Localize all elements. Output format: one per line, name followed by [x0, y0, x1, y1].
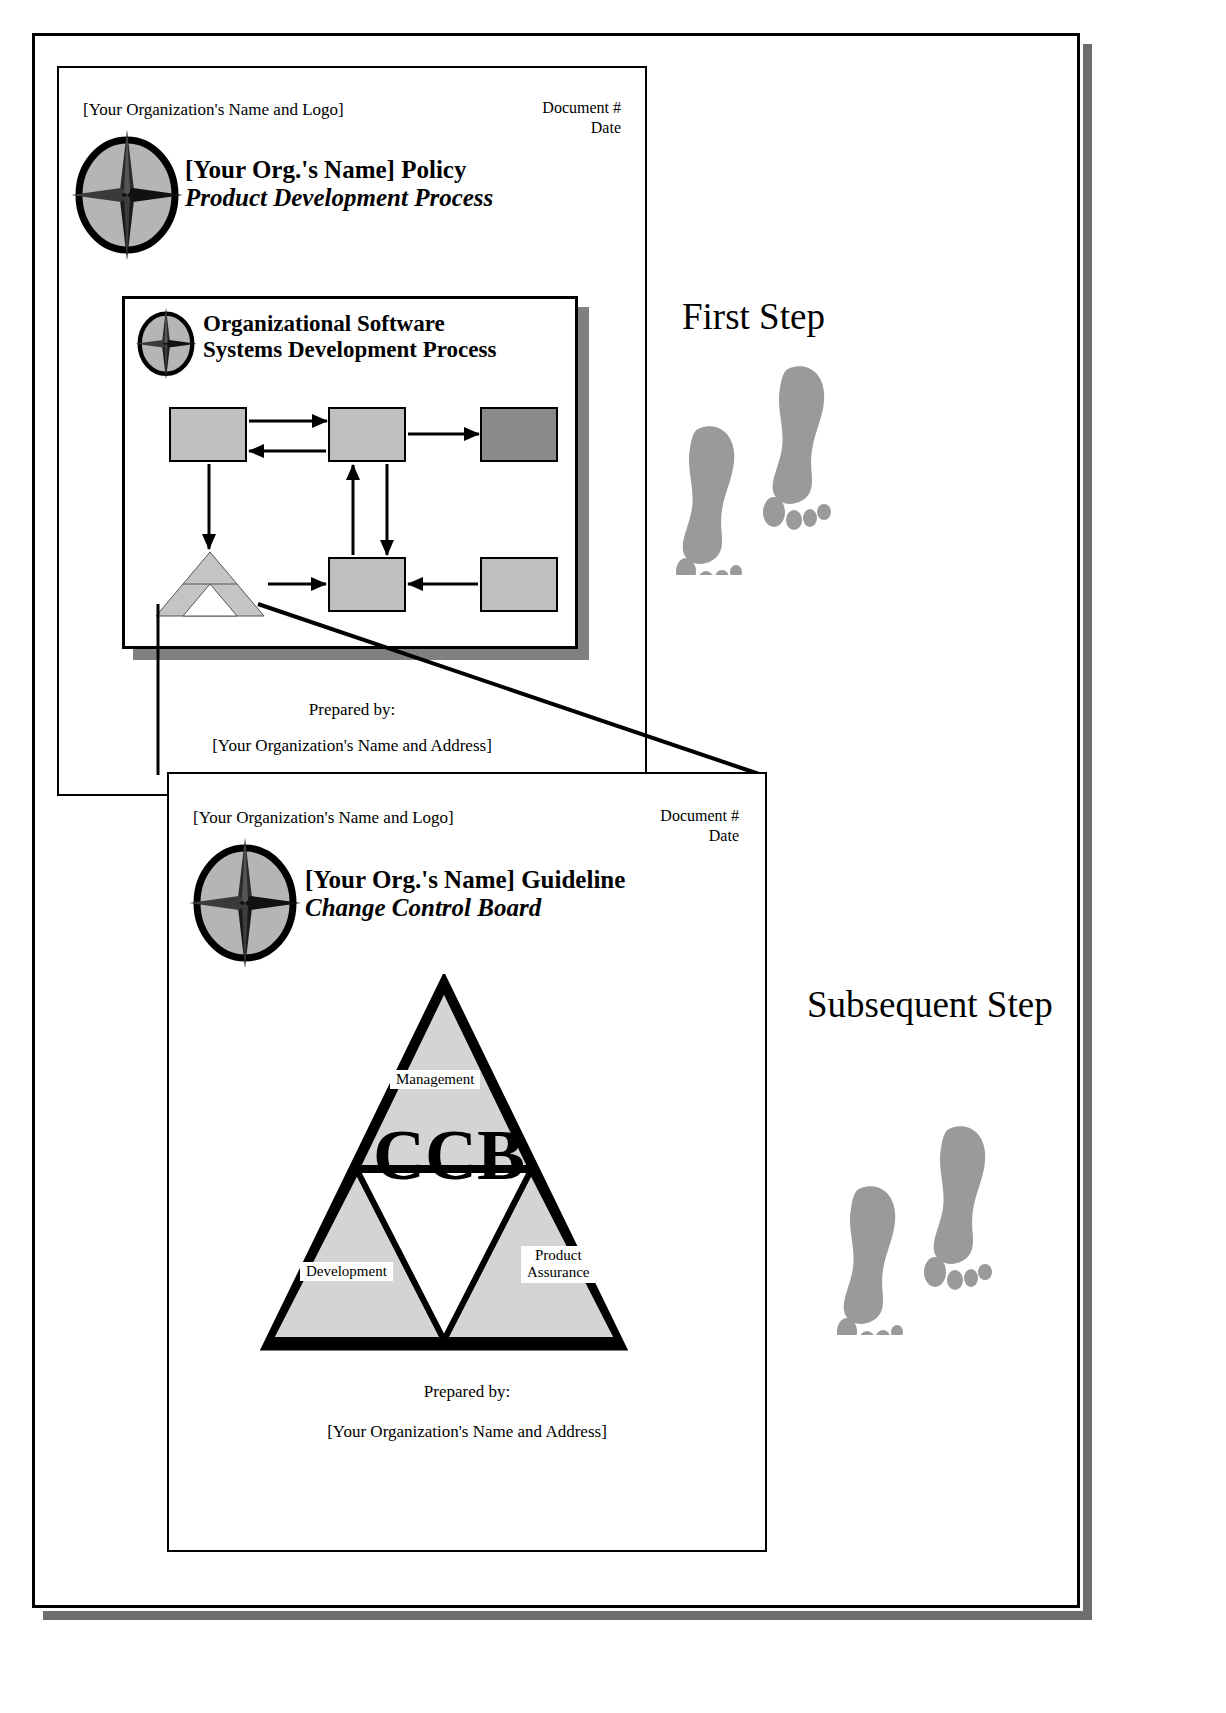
guideline-date-label: Date [660, 826, 739, 846]
segment-product-assurance-label-line2: Assurance [527, 1264, 589, 1281]
guideline-org-logo-line: [Your Organization's Name and Logo] [193, 808, 454, 828]
guideline-title-sub: Change Control Board [305, 894, 625, 922]
guideline-page-sheet: [Your Organization's Name and Logo] Docu… [167, 772, 767, 1552]
ccb-center-text: CCB [373, 1114, 525, 1197]
policy-title-main: [Your Org.'s Name] Policy [185, 156, 493, 184]
compass-star-icon [189, 836, 301, 971]
policy-document-meta: Document # Date [542, 98, 621, 138]
segment-product-assurance-label: Product Assurance [521, 1246, 595, 1283]
guideline-document-meta: Document # Date [660, 806, 739, 846]
guideline-title-main: [Your Org.'s Name] Guideline [305, 866, 625, 894]
segment-management-label: Management [390, 1070, 480, 1089]
first-step-label: First Step [682, 295, 825, 338]
process-box: Organizational Software Systems Developm… [122, 296, 578, 649]
segment-development-label: Development [300, 1262, 393, 1281]
policy-title-sub: Product Development Process [185, 184, 493, 212]
footprints-icon [833, 1120, 1033, 1335]
guideline-document-number-label: Document # [660, 806, 739, 826]
outer-frame-shadow-bottom [43, 1611, 1092, 1620]
guideline-title-block: [Your Org.'s Name] Guideline Change Cont… [305, 866, 625, 922]
policy-date-label: Date [542, 118, 621, 138]
compass-star-icon [71, 128, 183, 263]
guideline-prepared-by-label: Prepared by: [169, 1382, 765, 1402]
subsequent-step-label: Subsequent Step [807, 983, 1053, 1026]
policy-title-block: [Your Org.'s Name] Policy Product Develo… [185, 156, 493, 212]
footprints-icon [672, 360, 872, 575]
policy-document-number-label: Document # [542, 98, 621, 118]
process-flow-arrows [125, 299, 581, 652]
policy-prepared-by-value: [Your Organization's Name and Address] [59, 736, 645, 756]
policy-prepared-by-label: Prepared by: [59, 700, 645, 720]
outer-frame-shadow-right [1083, 44, 1092, 1619]
policy-org-logo-line: [Your Organization's Name and Logo] [83, 100, 344, 120]
figure-canvas: [Your Organization's Name and Logo] Docu… [0, 0, 1226, 1713]
guideline-prepared-by-value: [Your Organization's Name and Address] [169, 1422, 765, 1442]
segment-product-assurance-label-line1: Product [527, 1247, 589, 1264]
